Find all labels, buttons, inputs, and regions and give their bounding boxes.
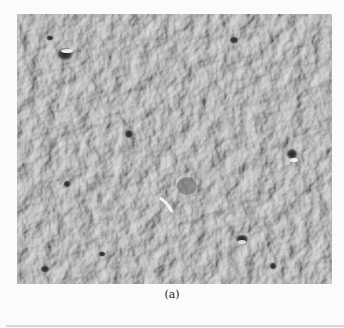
figure-caption: (a) — [0, 288, 344, 301]
divider-line — [6, 325, 344, 327]
lunar-surface-photo — [17, 14, 332, 284]
